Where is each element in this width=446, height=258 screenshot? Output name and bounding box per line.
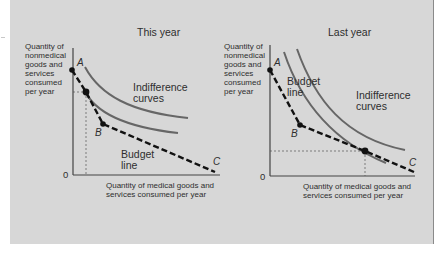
left-x-label-line: Quantity of medical goods and [106,181,214,190]
left-y-label-line: goods and [25,60,66,69]
right-y-label-line: goods and [224,60,265,69]
right-y-label-line: Quantity of [224,42,265,51]
left-y-label-line: per year [25,87,66,96]
right-point-b [297,122,303,128]
left-x-label-line: services consumed per year [106,190,214,199]
left-y-axis-label: Quantity of nonmedical goods and service… [25,42,66,96]
left-y-label-line: nonmedical [25,51,66,60]
left-curves-label-line: curves [133,93,188,104]
right-point-optimum [362,148,369,155]
right-curves-label-line: curves [356,101,411,112]
right-origin-label: 0 [260,172,265,182]
left-origin-label: 0 [63,170,68,180]
left-x-axis-label: Quantity of medical goods and services c… [106,181,214,199]
left-point-c-label: C [213,157,220,167]
left-point-a [69,67,75,73]
right-x-label-line: Quantity of medical goods and [303,182,411,191]
right-y-label-line: per year [224,87,265,96]
right-point-a [267,67,273,73]
right-budget-label: Budget line [287,76,320,98]
left-y-label-line: Quantity of [25,42,66,51]
right-budget-label-line: line [287,87,320,98]
right-x-label-line: services consumed per year [303,191,411,200]
right-x-axis-label: Quantity of medical goods and services c… [303,182,411,200]
left-y-label-line: consumed [25,78,66,87]
diagram-canvas [0,0,446,258]
right-y-label-line: nonmedical [224,51,265,60]
right-y-label-line: services [224,69,265,78]
right-point-b-label: B [291,129,298,139]
right-title: Last year [328,27,371,37]
left-point-optimum [83,89,90,96]
right-point-c-label: C [409,158,416,168]
right-y-label-line: consumed [224,78,265,87]
left-curves-label: Indifference curves [133,82,188,104]
right-point-a-label: A [274,58,281,68]
right-y-axis-label: Quantity of nonmedical goods and service… [224,42,265,96]
left-point-b-label: B [95,128,102,138]
left-budget-label: Budget line [121,149,154,171]
left-point-b [100,121,106,127]
left-title: This year [137,27,180,37]
left-budget-label-line: line [121,160,154,171]
left-y-label-line: services [25,69,66,78]
right-curves-label: Indifference curves [356,90,411,112]
left-point-a-label: A [77,58,84,68]
